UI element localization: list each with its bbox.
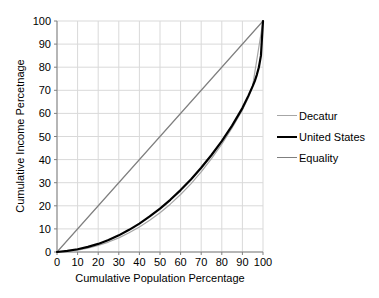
y-tick-label: 0 xyxy=(45,246,51,258)
y-tick-label: 30 xyxy=(39,177,51,189)
y-tick-label: 90 xyxy=(39,38,51,50)
legend-line-swatch xyxy=(277,157,297,158)
y-tick-label: 60 xyxy=(39,107,51,119)
x-axis-title: Cumulative Population Percentage xyxy=(57,272,263,284)
x-tick-label: 60 xyxy=(174,256,186,268)
legend-line-swatch xyxy=(277,136,297,138)
lorenz-curve-chart: 0102030405060708090100010203040506070809… xyxy=(0,0,379,298)
y-tick-label: 40 xyxy=(39,154,51,166)
y-axis-title: Cumulative Income Percetnage xyxy=(14,59,26,212)
x-tick-label: 90 xyxy=(236,256,248,268)
x-tick-label: 0 xyxy=(54,256,60,268)
y-tick-label: 100 xyxy=(33,15,51,27)
y-tick-label: 20 xyxy=(39,200,51,212)
x-tick-label: 40 xyxy=(133,256,145,268)
x-tick-label: 80 xyxy=(216,256,228,268)
y-tick-label: 10 xyxy=(39,223,51,235)
legend-label: Decatur xyxy=(299,110,338,122)
x-tick-label: 100 xyxy=(254,256,272,268)
y-tick-label: 50 xyxy=(39,131,51,143)
x-tick-label: 30 xyxy=(113,256,125,268)
legend-item-united-states: United States xyxy=(277,126,365,147)
legend: DecaturUnited StatesEquality xyxy=(277,105,365,168)
x-tick-label: 20 xyxy=(92,256,104,268)
x-tick-label: 50 xyxy=(154,256,166,268)
legend-label: United States xyxy=(299,131,365,143)
y-tick-label: 80 xyxy=(39,61,51,73)
x-tick-label: 70 xyxy=(195,256,207,268)
x-tick-label: 10 xyxy=(71,256,83,268)
legend-item-decatur: Decatur xyxy=(277,105,365,126)
legend-line-swatch xyxy=(277,115,297,116)
legend-item-equality: Equality xyxy=(277,147,365,168)
legend-label: Equality xyxy=(299,152,338,164)
y-tick-label: 70 xyxy=(39,84,51,96)
